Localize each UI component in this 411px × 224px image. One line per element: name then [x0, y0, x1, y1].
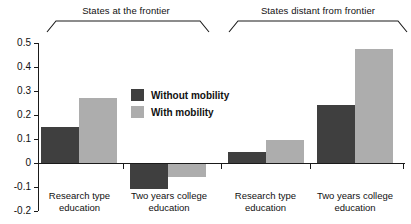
x-tick-sep-2 — [221, 163, 222, 169]
y-tick-4 — [34, 139, 38, 140]
y-tick-1 — [34, 67, 38, 68]
x-tick-sep-3 — [310, 163, 311, 169]
legend-swatch-with-mobility — [131, 106, 144, 118]
y-tick-label-3: 0.2 — [1, 110, 31, 120]
category-label-2-line1: Two years college — [114, 190, 224, 202]
group-brace-right — [228, 19, 408, 33]
category-label-2-line2: education — [114, 202, 224, 214]
bar-g3-without-mobility — [228, 152, 266, 163]
bar-chart: States at the frontier States distant fr… — [0, 0, 411, 224]
bar-g4-without-mobility — [317, 105, 355, 163]
y-tick-label-4: 0.1 — [1, 134, 31, 144]
legend-label-without-mobility: Without mobility — [151, 90, 229, 101]
y-tick-3 — [34, 115, 38, 116]
legend-item-with-mobility: With mobility — [131, 106, 229, 118]
group-header-right: States distant from frontier — [233, 5, 403, 16]
chart-legend: Without mobility With mobility — [131, 89, 229, 123]
bar-g3-with-mobility — [266, 140, 304, 163]
x-tick-sep-4 — [403, 163, 404, 169]
legend-label-with-mobility: With mobility — [151, 107, 214, 118]
bar-g1-without-mobility — [41, 127, 79, 163]
legend-swatch-without-mobility — [131, 89, 144, 101]
y-tick-label-0: 0.5 — [1, 38, 31, 48]
y-tick-label-2: 0.3 — [1, 86, 31, 96]
category-label-4: Two years college education — [300, 190, 410, 213]
category-label-4-line1: Two years college — [300, 190, 410, 202]
category-label-2: Two years college education — [114, 190, 224, 213]
category-label-4-line2: education — [300, 202, 410, 214]
y-axis — [38, 43, 39, 211]
y-tick-2 — [34, 91, 38, 92]
group-brace-left — [46, 19, 210, 33]
y-tick-0 — [34, 43, 38, 44]
y-tick-5 — [34, 163, 38, 164]
y-tick-label-1: 0.4 — [1, 62, 31, 72]
bar-g2-without-mobility — [130, 164, 168, 189]
bar-g1-with-mobility — [79, 98, 117, 163]
bar-g2-with-mobility — [168, 164, 206, 177]
y-tick-6 — [34, 187, 38, 188]
y-tick-label-5: 0 — [1, 158, 31, 168]
x-tick-sep-1 — [123, 163, 124, 169]
group-header-left: States at the frontier — [51, 5, 201, 16]
legend-item-without-mobility: Without mobility — [131, 89, 229, 101]
bar-g4-with-mobility — [355, 49, 393, 163]
